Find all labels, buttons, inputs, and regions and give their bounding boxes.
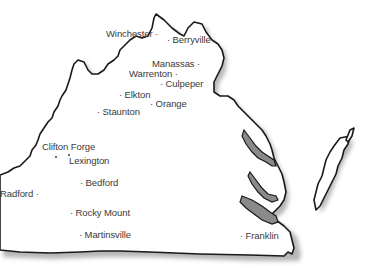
city-label-radford: Radford · xyxy=(0,189,39,199)
city-label-rocky-mount: · Rocky Mount xyxy=(70,208,130,218)
city-label-culpeper: · Culpeper xyxy=(160,79,203,89)
city-label-berryville: · Berryville xyxy=(167,35,211,45)
city-label-winchester: Winchester · xyxy=(106,29,158,39)
city-label-bedford: · Bedford xyxy=(80,178,118,188)
city-dot-lexington xyxy=(68,154,70,156)
virginia-map: Winchester · · Berryville Manassas · War… xyxy=(0,0,370,275)
eastern-shore-peninsula xyxy=(314,136,350,210)
city-label-clifton-forge: Clifton Forge xyxy=(42,142,95,152)
virginia-mainland-shape xyxy=(0,14,294,256)
city-label-franklin: · Franklin xyxy=(240,231,279,241)
city-dot-clifton-forge xyxy=(55,156,57,158)
city-label-staunton: · Staunton xyxy=(97,107,140,117)
city-label-lexington: Lexington xyxy=(69,156,109,166)
city-label-orange: · Orange xyxy=(150,99,187,109)
city-label-martinsville: · Martinsville xyxy=(79,230,131,240)
city-label-elkton: · Elkton xyxy=(119,90,150,100)
